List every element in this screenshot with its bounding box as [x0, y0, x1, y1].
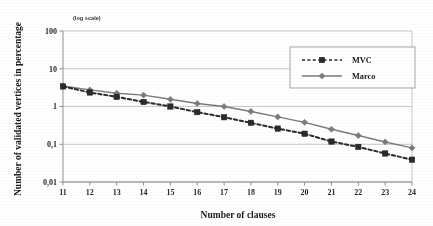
- data-point-marker: [356, 144, 361, 149]
- log-scale-note: (log scale): [73, 15, 101, 21]
- data-point-marker: [141, 99, 146, 104]
- data-point-marker: [382, 151, 387, 156]
- data-point-marker: [329, 139, 334, 144]
- x-tick-label: 11: [59, 188, 67, 197]
- data-point-marker: [87, 90, 92, 95]
- data-point-marker: [195, 109, 200, 114]
- chart-legend: MVCMarco: [290, 47, 415, 88]
- data-point-marker: [168, 104, 173, 109]
- data-point-marker: [302, 131, 307, 136]
- chart-canvas: (log scale) Number of validated vertices…: [0, 0, 433, 226]
- x-tick-label: 23: [381, 188, 389, 197]
- y-tick-label: 100: [45, 27, 57, 36]
- data-point-marker: [248, 120, 253, 125]
- x-tick-label: 12: [86, 188, 94, 197]
- x-axis-title: Number of clauses: [201, 210, 276, 220]
- y-axis-title: Number of validated vertices in percenta…: [13, 22, 23, 196]
- x-tick-label: 13: [113, 188, 121, 197]
- legend-label-marco: Marco: [352, 72, 375, 81]
- data-point-marker: [60, 84, 65, 89]
- x-tick-label: 19: [274, 188, 282, 197]
- x-tick-label: 20: [301, 188, 309, 197]
- x-tick-label: 17: [220, 188, 228, 197]
- y-tick-label: 1: [53, 102, 57, 111]
- chart-figure: (log scale) Number of validated vertices…: [0, 0, 433, 226]
- x-tick-label: 21: [327, 188, 335, 197]
- data-point-marker: [409, 157, 414, 162]
- x-tick-label: 15: [166, 188, 174, 197]
- data-point-marker: [275, 126, 280, 131]
- legend-box: [290, 47, 415, 88]
- x-tick-label: 16: [193, 188, 201, 197]
- x-tick-label: 22: [354, 188, 362, 197]
- y-tick-label: 0,01: [43, 178, 57, 187]
- x-tick-label: 24: [408, 188, 416, 197]
- legend-label-mvc: MVC: [352, 56, 372, 65]
- x-tick-label: 18: [247, 188, 255, 197]
- y-tick-label: 0,1: [47, 140, 57, 149]
- y-tick-label: 10: [49, 65, 57, 74]
- data-point-marker: [221, 115, 226, 120]
- x-tick-label: 14: [140, 188, 148, 197]
- data-point-marker: [114, 94, 119, 99]
- data-point-marker: [319, 57, 324, 62]
